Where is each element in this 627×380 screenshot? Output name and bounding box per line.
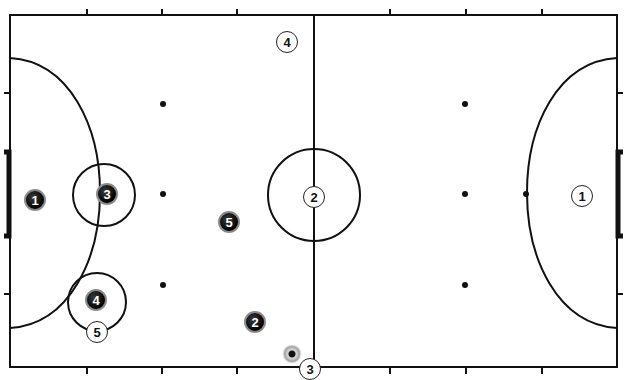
player-number: 1	[31, 193, 38, 208]
right-goal	[618, 152, 623, 236]
dark-player-1: 1	[24, 189, 46, 211]
dark-player-3: 3	[96, 183, 118, 205]
penalty-spot-right	[523, 191, 529, 197]
spot	[160, 191, 166, 197]
player-number: 2	[310, 190, 317, 205]
spot	[462, 282, 468, 288]
player-number: 1	[578, 189, 585, 204]
spot	[462, 101, 468, 107]
left-goal	[4, 152, 9, 236]
ball-icon	[284, 346, 300, 362]
light-player-3: 3	[299, 358, 321, 380]
dark-player-2: 2	[244, 311, 266, 333]
light-player-5: 5	[86, 321, 108, 343]
light-player-2: 2	[303, 186, 325, 208]
spot	[160, 101, 166, 107]
spot	[160, 282, 166, 288]
player-number: 2	[251, 315, 258, 330]
player-number: 5	[225, 215, 232, 230]
player-number: 5	[93, 325, 100, 340]
light-player-4: 4	[276, 31, 298, 53]
player-number: 3	[306, 362, 313, 377]
left-penalty-arc	[10, 58, 100, 328]
player-number: 3	[103, 187, 110, 202]
spot	[462, 191, 468, 197]
player-number: 4	[92, 293, 99, 308]
dark-player-4: 4	[85, 289, 107, 311]
dark-player-5: 5	[218, 211, 240, 233]
light-player-1: 1	[571, 185, 593, 207]
player-number: 4	[283, 35, 290, 50]
